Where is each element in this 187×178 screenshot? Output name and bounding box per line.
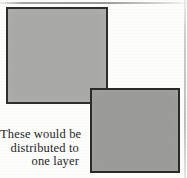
caption-line-2: distributed to: [0, 142, 79, 156]
scan-artifact-top-line: [0, 2, 187, 4]
figure-canvas: These would be distributed to one layer: [0, 0, 187, 178]
lower-right-square: [90, 88, 180, 173]
caption: These would be distributed to one layer: [0, 128, 79, 169]
caption-line-1: These would be: [0, 128, 79, 142]
caption-line-3: one layer: [0, 155, 79, 169]
scan-artifact-right-line: [184, 0, 186, 178]
